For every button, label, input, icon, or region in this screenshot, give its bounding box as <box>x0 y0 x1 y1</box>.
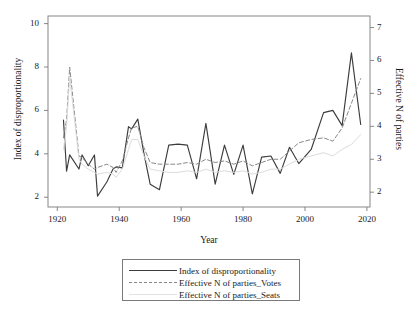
y-tick-right-3: 3 <box>377 153 399 163</box>
x-tick-1920: 1920 <box>37 214 77 224</box>
y-tick-right-2: 2 <box>377 186 399 196</box>
legend-label: Index of disproportionality <box>179 266 276 276</box>
x-tick-2020: 2020 <box>347 214 387 224</box>
x-tick-1940: 1940 <box>99 214 139 224</box>
y-tick-left-8: 8 <box>17 61 39 71</box>
legend-item-3[interactable]: Effective N of parties_Seats <box>123 288 299 301</box>
x-axis-title: Year <box>159 235 259 245</box>
y-tick-right-5: 5 <box>377 87 399 97</box>
x-tick-1980: 1980 <box>223 214 263 224</box>
legend-line-sample-icon <box>129 289 177 301</box>
legend-label: Effective N of parties_Votes <box>179 278 281 288</box>
series-line-1 <box>63 53 360 196</box>
legend-line-sample-icon <box>129 277 177 289</box>
axis-ticks <box>44 24 374 211</box>
y-tick-left-2: 2 <box>17 191 39 201</box>
chart-figure: Index of disproportionality Effective N … <box>0 0 418 321</box>
x-tick-2000: 2000 <box>285 214 325 224</box>
y-tick-left-6: 6 <box>17 104 39 114</box>
y-tick-right-4: 4 <box>377 120 399 130</box>
y-tick-left-4: 4 <box>17 148 39 158</box>
series-line-2 <box>63 67 360 172</box>
data-series <box>63 53 360 196</box>
legend-label: Effective N of parties_Seats <box>179 290 280 300</box>
y-tick-right-6: 6 <box>377 54 399 64</box>
x-tick-1960: 1960 <box>161 214 201 224</box>
y-tick-right-7: 7 <box>377 22 399 32</box>
legend-line-sample-icon <box>129 265 177 277</box>
y-tick-left-10: 10 <box>17 18 39 28</box>
chart-legend: Index of disproportionalityEffective N o… <box>122 259 300 301</box>
